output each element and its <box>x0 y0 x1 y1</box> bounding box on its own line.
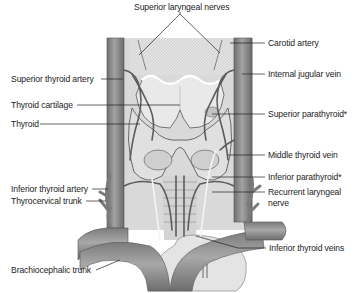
label-superior-parathyroid: Superior parathyroid* <box>268 109 347 119</box>
label-carotid-artery: Carotid artery <box>268 38 319 48</box>
label-inferior-thyroid-artery: Inferior thyroid artery <box>11 184 88 194</box>
label-inferior-thyroid-veins: Inferior thyroid veins <box>269 243 344 253</box>
label-thyroid-cartilage: Thyroid cartilage <box>11 100 73 110</box>
left-carotid-vessel <box>107 38 124 228</box>
label-inferior-parathyroid: Inferior parathyroid* <box>268 172 341 182</box>
right-jugular-vessel <box>234 38 252 222</box>
label-superior-laryngeal-nerves: Superior laryngeal nerves <box>134 2 229 12</box>
thyroid-anatomy-figure: Superior laryngeal nerves Superior thyro… <box>0 0 360 293</box>
label-superior-thyroid-artery: Superior thyroid artery <box>11 74 94 84</box>
label-middle-thyroid-vein: Middle thyroid vein <box>268 150 338 160</box>
label-thyroid: Thyroid <box>11 119 39 129</box>
label-brachiocephalic-trunk: Brachiocephalic trunk <box>11 265 91 275</box>
label-recurrent-laryngeal-nerve: Recurrent laryngeal <box>268 187 341 197</box>
label-internal-jugular-vein: Internal jugular vein <box>268 69 341 79</box>
label-thyrocervical-trunk: Thyrocervical trunk <box>11 196 82 206</box>
label-recurrent-laryngeal-nerve-line2: nerve <box>268 198 289 208</box>
trachea-shape <box>162 176 198 240</box>
